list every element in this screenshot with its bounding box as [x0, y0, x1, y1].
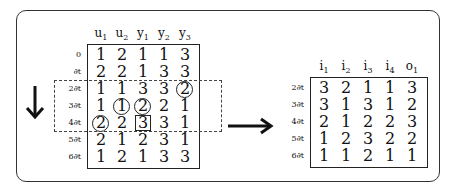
table-cell: 3	[154, 148, 174, 166]
header-letter: y	[179, 26, 186, 40]
column-header: i4	[380, 59, 400, 75]
table-cell: 1	[336, 147, 356, 165]
header-subscript: 1	[102, 33, 107, 42]
row-label: 3∂t	[278, 100, 304, 109]
row-label: 5∂t	[55, 135, 81, 144]
row-label: 0	[55, 50, 81, 59]
row-label: 2∂t	[278, 83, 304, 92]
row-label: ∂t	[55, 67, 81, 76]
header-subscript: 1	[323, 66, 328, 75]
table-cell: 2	[112, 148, 132, 166]
header-subscript: 1	[413, 66, 418, 75]
header-letter: o	[406, 59, 413, 73]
column-header: o1	[402, 59, 422, 75]
table-cell: 2	[358, 147, 378, 165]
arrow-down-icon	[24, 84, 46, 120]
row-label: 5∂t	[278, 134, 304, 143]
sliding-window	[54, 80, 222, 132]
column-header: u2	[112, 26, 132, 42]
column-header: i3	[358, 59, 378, 75]
header-subscript: 3	[367, 66, 372, 75]
column-header: i2	[336, 59, 356, 75]
table-cell: 1	[133, 148, 153, 166]
column-header: y3	[175, 26, 195, 42]
header-subscript: 2	[123, 33, 128, 42]
arrow-right-icon	[226, 116, 274, 136]
row-label: 6∂t	[278, 151, 304, 160]
table-cell: 3	[175, 148, 195, 166]
row-label: 4∂t	[278, 117, 304, 126]
table-cell: 1	[91, 148, 111, 166]
table-cell: 1	[402, 147, 422, 165]
header-subscript: 1	[144, 33, 149, 42]
header-letter: y	[137, 26, 144, 40]
column-header: i1	[314, 59, 334, 75]
table-cell: 1	[380, 147, 400, 165]
row-label: 6∂t	[55, 152, 81, 161]
header-subscript: 4	[389, 66, 394, 75]
column-header: u1	[91, 26, 111, 42]
column-header: y2	[154, 26, 174, 42]
header-subscript: 3	[186, 33, 191, 42]
table-cell: 1	[314, 147, 334, 165]
header-subscript: 2	[345, 66, 350, 75]
column-header: y1	[133, 26, 153, 42]
header-letter: y	[158, 26, 165, 40]
header-subscript: 2	[165, 33, 170, 42]
